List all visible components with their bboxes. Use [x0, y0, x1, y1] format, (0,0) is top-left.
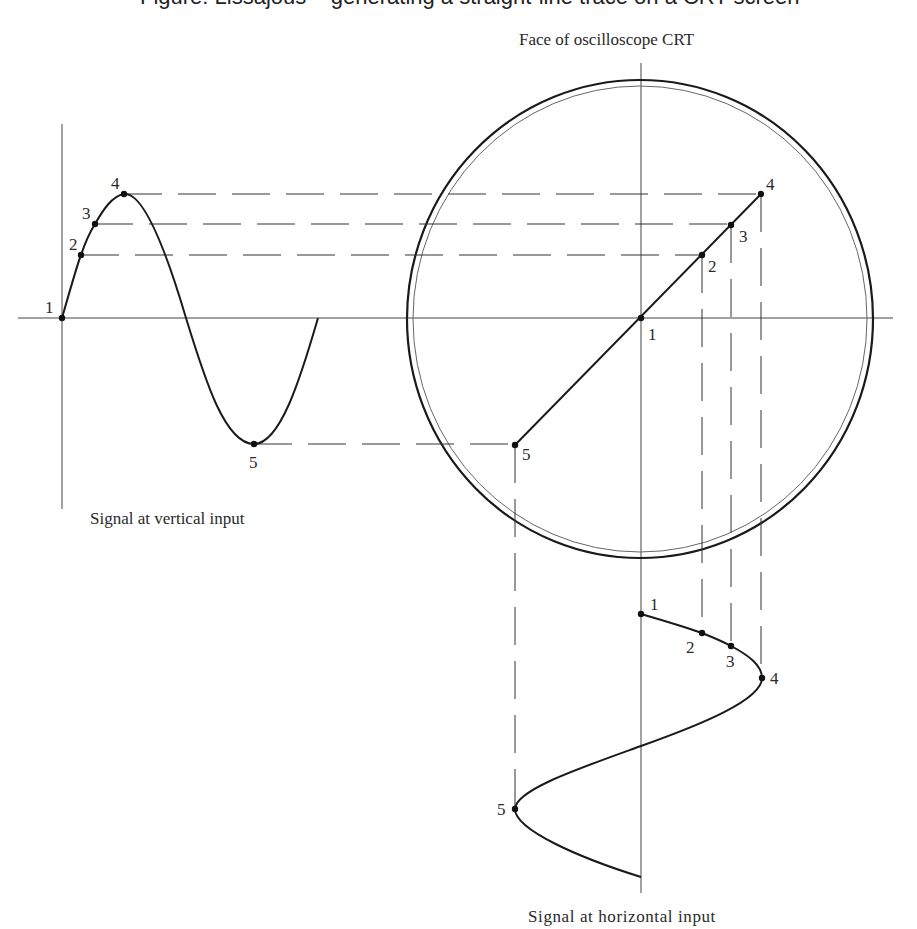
h-label-4: 4 — [770, 669, 779, 688]
vertical-projection-lines — [515, 194, 761, 809]
horizontal-input-caption: Signal at horizontal input — [528, 907, 716, 926]
v-label-5: 5 — [249, 453, 258, 472]
vertical-input-caption: Signal at vertical input — [90, 509, 245, 528]
crt-title: Face of oscilloscope CRT — [519, 30, 695, 49]
v-point-4 — [121, 191, 127, 197]
crt-label-4: 4 — [766, 175, 775, 194]
horizontal-input-sine-wave — [515, 614, 762, 877]
h-label-3: 3 — [726, 652, 735, 671]
crt-point-3 — [728, 222, 734, 228]
h-point-5 — [512, 806, 518, 812]
vertical-signal-points — [59, 191, 257, 447]
v-point-1 — [59, 315, 65, 321]
h-point-3 — [728, 643, 734, 649]
h-point-2 — [699, 630, 705, 636]
h-point-4 — [759, 675, 765, 681]
vertical-input-sine-wave — [62, 194, 318, 444]
v-point-3 — [92, 221, 98, 227]
oscilloscope-diagram: Figure: Lissajous – generating a straigh… — [0, 0, 917, 929]
crt-point-1 — [638, 315, 644, 321]
v-label-3: 3 — [82, 204, 91, 223]
vertical-signal-labels: 1 2 3 4 5 — [45, 174, 258, 472]
v-point-2 — [78, 252, 84, 258]
v-label-1: 1 — [45, 298, 54, 317]
h-label-5: 5 — [497, 800, 506, 819]
v-point-5 — [251, 441, 257, 447]
h-point-1 — [638, 611, 644, 617]
crt-label-2: 2 — [708, 257, 717, 276]
crt-label-1: 1 — [648, 325, 657, 344]
h-label-2: 2 — [686, 638, 695, 657]
top-caption-clip: Figure: Lissajous – generating a straigh… — [140, 0, 800, 9]
top-caption-fragment: Figure: Lissajous – generating a straigh… — [140, 0, 800, 9]
crt-label-5: 5 — [522, 445, 531, 464]
crt-label-3: 3 — [739, 227, 748, 246]
crt-trace-line — [515, 194, 761, 445]
crt-point-4 — [758, 191, 764, 197]
h-label-1: 1 — [650, 595, 659, 614]
horizontal-projection-lines — [81, 194, 761, 444]
v-label-4: 4 — [111, 174, 120, 193]
v-label-2: 2 — [69, 235, 78, 254]
crt-point-2 — [699, 252, 705, 258]
crt-point-5 — [512, 442, 518, 448]
